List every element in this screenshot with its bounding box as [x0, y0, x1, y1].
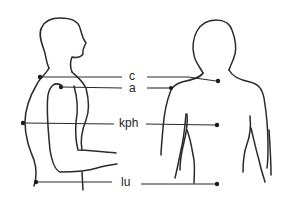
back-view-figure	[161, 20, 271, 183]
label-kph: kph	[119, 117, 138, 129]
leader-a	[59, 85, 173, 90]
body-diagram	[0, 0, 298, 202]
label-lu: lu	[121, 176, 130, 188]
label-a: a	[129, 82, 136, 94]
side-profile-figure	[25, 18, 117, 190]
